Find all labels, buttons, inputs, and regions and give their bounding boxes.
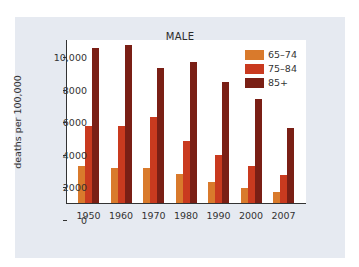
bar-1970-75–84 <box>150 117 157 203</box>
legend-item: 65–74 <box>245 48 297 61</box>
bar-1980-65–74 <box>176 174 183 203</box>
bar-2000-85+ <box>255 99 262 203</box>
x-tick-label: 1990 <box>204 210 234 221</box>
bar-1990-65–74 <box>208 182 215 203</box>
bar-2000-75–84 <box>248 166 255 203</box>
y-tick-label: 8000 <box>63 84 87 95</box>
bar-1960-85+ <box>125 45 132 203</box>
bar-group-1980 <box>176 40 197 203</box>
y-tick-label: 10,000 <box>54 52 87 63</box>
x-tick-label: 1970 <box>139 210 169 221</box>
bar-group-1970 <box>143 40 164 203</box>
y-axis-label: deaths per 100,000 <box>12 67 23 177</box>
x-tick-label: 1980 <box>171 210 201 221</box>
legend: 65–7475–8485+ <box>245 48 297 90</box>
legend-item: 85+ <box>245 76 297 89</box>
bar-2000-65–74 <box>241 188 248 203</box>
bar-1970-85+ <box>157 68 164 203</box>
bar-2007-65–74 <box>273 192 280 203</box>
bar-1970-65–74 <box>143 168 150 203</box>
x-tick-label: 2000 <box>236 210 266 221</box>
y-tick-label: 2000 <box>63 182 87 193</box>
bar-1980-75–84 <box>183 141 190 203</box>
bar-1950-85+ <box>92 48 99 203</box>
bar-1980-85+ <box>190 62 197 203</box>
bar-group-1960 <box>111 40 132 203</box>
y-tick-label: 6000 <box>63 117 87 128</box>
legend-swatch <box>245 64 264 74</box>
legend-label: 75–84 <box>268 63 297 74</box>
bar-1990-75–84 <box>215 155 222 203</box>
legend-swatch <box>245 50 264 60</box>
y-tick <box>63 220 67 221</box>
bar-2007-75–84 <box>280 175 287 203</box>
bar-1960-75–84 <box>118 126 125 203</box>
bar-group-1990 <box>208 40 229 203</box>
legend-label: 65–74 <box>268 49 297 60</box>
bar-1990-85+ <box>222 82 229 203</box>
x-tick-label: 1960 <box>106 210 136 221</box>
x-tick-label: 2007 <box>269 210 299 221</box>
legend-item: 75–84 <box>245 62 297 75</box>
bar-1960-65–74 <box>111 168 118 203</box>
legend-swatch <box>245 78 264 88</box>
x-axis-line <box>66 203 306 204</box>
x-tick-label: 1950 <box>74 210 104 221</box>
bar-2007-85+ <box>287 128 294 203</box>
legend-label: 85+ <box>268 77 288 88</box>
y-tick-label: 4000 <box>63 149 87 160</box>
